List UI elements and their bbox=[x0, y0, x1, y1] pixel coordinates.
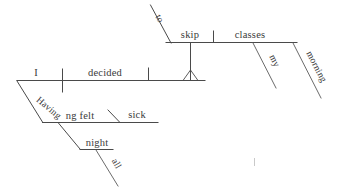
word-subject: I bbox=[34, 67, 38, 78]
infinitive-phrase-group bbox=[151, 5, 322, 98]
sentence-diagram-page: I decided to skip classes my morning Hav… bbox=[0, 0, 343, 187]
word-object-modifier-my: my bbox=[267, 53, 282, 69]
word-participle-part-2: ng felt bbox=[66, 110, 95, 121]
word-infinitive-verb: skip bbox=[181, 29, 199, 40]
word-adverbial-noun: night bbox=[86, 137, 109, 148]
predicate-adjective-divider bbox=[108, 110, 120, 123]
diagram-canvas: I decided to skip classes my morning Hav… bbox=[0, 0, 343, 187]
word-participle-complement: sick bbox=[128, 109, 146, 120]
infinitive-marker-line bbox=[151, 5, 172, 43]
word-adverbial-modifier-all: all bbox=[110, 157, 124, 171]
adverbial-noun-slant bbox=[58, 123, 80, 150]
word-main-verb: decided bbox=[88, 67, 123, 78]
word-direct-object: classes bbox=[235, 29, 266, 40]
word-object-modifier-morning: morning bbox=[305, 49, 329, 84]
